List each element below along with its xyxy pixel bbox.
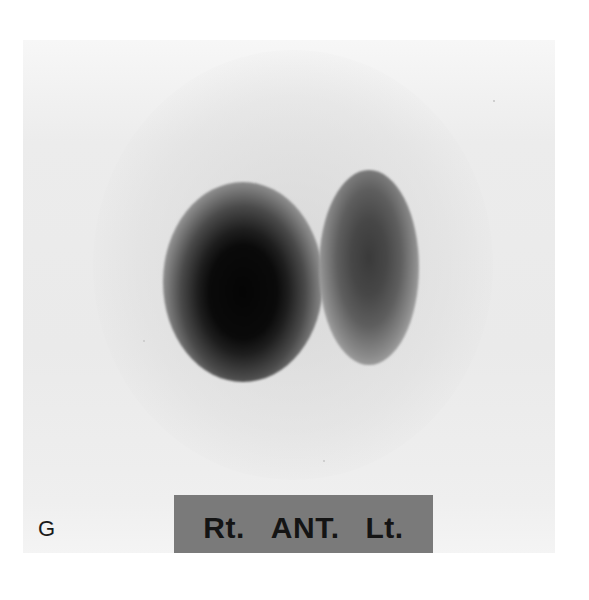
noise-speck (143, 340, 145, 342)
view-label-bar: Rt. ANT. Lt. (174, 495, 433, 553)
noise-speck (493, 100, 495, 102)
label-right: Rt. (203, 511, 245, 545)
noise-speck (323, 460, 325, 462)
right-thyroid-lobe-uptake (163, 182, 323, 382)
label-left: Lt. (366, 511, 404, 545)
scintigraphy-panel: G Rt. ANT. Lt. (23, 40, 555, 553)
scan-image (23, 40, 555, 553)
panel-letter: G (38, 518, 55, 540)
label-view: ANT. (271, 511, 340, 545)
left-thyroid-lobe-uptake (319, 170, 419, 365)
